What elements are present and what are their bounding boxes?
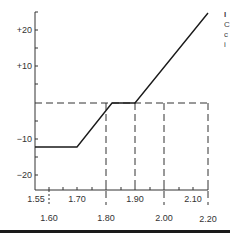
side-text-line: i <box>224 40 230 50</box>
x-label-2-10: 2.10 <box>184 194 202 204</box>
side-text-line: c <box>224 30 230 40</box>
side-text-fragment: I C c i <box>224 10 230 50</box>
x-label-1-90: 1.90 <box>126 194 144 204</box>
y-label-plus10: +10 <box>17 61 32 71</box>
y-label-minus10: −10 <box>17 134 32 144</box>
side-text-line: I <box>224 10 230 20</box>
bottom-rule <box>0 230 230 233</box>
y-label-minus20: −20 <box>17 170 32 180</box>
side-text-line: C <box>224 20 230 30</box>
x-label-2-20: 2.20 <box>199 214 217 224</box>
x-label-1-70: 1.70 <box>68 194 86 204</box>
x-label-1-55: 1.55 <box>27 194 45 204</box>
x-label-1-60: 1.60 <box>40 213 58 223</box>
payoff-line <box>35 13 208 147</box>
payoff-chart: +20 +10 −10 −20 1.55 1.70 1.90 2.10 1.60… <box>0 0 230 234</box>
x-label-1-80: 1.80 <box>97 213 115 223</box>
y-label-plus20: +20 <box>17 25 32 35</box>
x-label-2-00: 2.00 <box>155 213 173 223</box>
